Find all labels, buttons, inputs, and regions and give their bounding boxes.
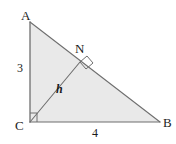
altitude-length-label-h: h <box>56 83 63 95</box>
point-label-n: N <box>75 42 84 55</box>
vertex-label-b: B <box>163 116 172 129</box>
vertex-label-c: C <box>15 119 24 132</box>
vertex-label-a: A <box>21 9 30 22</box>
geometry-figure: A B C N 3 4 h <box>0 0 176 144</box>
side-length-label-ac: 3 <box>17 62 23 74</box>
side-length-label-cb: 4 <box>92 127 98 139</box>
